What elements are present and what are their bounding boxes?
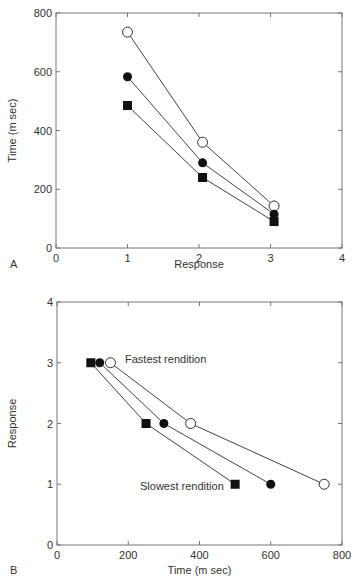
y-tick-label: 1 (47, 478, 53, 490)
plot-frame (57, 302, 342, 545)
panel-label: A (10, 258, 18, 270)
filled-circle-marker (95, 358, 104, 367)
square-marker (86, 358, 95, 367)
open-circle-marker (186, 419, 196, 429)
y-tick-label: 0 (46, 242, 52, 254)
filled-circle-marker (159, 419, 168, 428)
x-tick-label: 200 (119, 549, 137, 561)
y-axis-label: Time (m sec) (6, 99, 18, 163)
x-tick-label: 600 (262, 549, 280, 561)
square-marker (123, 101, 132, 110)
y-tick-label: 200 (34, 183, 52, 195)
open-circle-marker (269, 201, 279, 211)
panel-label: B (10, 564, 17, 576)
y-tick-label: 4 (47, 296, 53, 308)
y-tick-label: 400 (34, 125, 52, 137)
x-tick-label: 0 (54, 549, 60, 561)
open-circle-marker (198, 137, 208, 147)
x-tick-label: 1 (124, 252, 130, 264)
plot-frame (56, 13, 342, 248)
chart-panel-b: 020040060080001234Time (m sec)ResponseBF… (6, 296, 351, 576)
x-tick-label: 3 (267, 252, 273, 264)
y-axis-label: Response (6, 399, 18, 449)
square-marker (270, 217, 279, 226)
filled-circle-marker (198, 158, 207, 167)
filled-circle-marker (266, 480, 275, 489)
x-axis-label: Time (m sec) (168, 564, 232, 576)
x-tick-label: 4 (339, 252, 345, 264)
open-circle-marker (319, 479, 329, 489)
square-marker (142, 419, 151, 428)
square-marker (198, 173, 207, 182)
annotation-slowest: Slowest rendition (140, 480, 224, 492)
x-tick-label: 800 (333, 549, 351, 561)
x-axis-label: Response (174, 258, 224, 270)
open-circle-marker (123, 27, 133, 37)
y-tick-label: 2 (47, 418, 53, 430)
chart-panel-a: 012340200400600800ResponseTime (m sec)A (6, 7, 345, 270)
filled-circle-marker (123, 72, 132, 81)
figure: 012340200400600800ResponseTime (m sec)A0… (0, 0, 357, 579)
annotation-fastest: Fastest rendition (125, 353, 206, 365)
y-tick-label: 600 (34, 66, 52, 78)
y-tick-label: 3 (47, 357, 53, 369)
y-tick-label: 0 (47, 539, 53, 551)
x-tick-label: 0 (53, 252, 59, 264)
square-marker (231, 480, 240, 489)
y-tick-label: 800 (34, 7, 52, 19)
x-tick-label: 400 (190, 549, 208, 561)
open-circle-marker (105, 358, 115, 368)
